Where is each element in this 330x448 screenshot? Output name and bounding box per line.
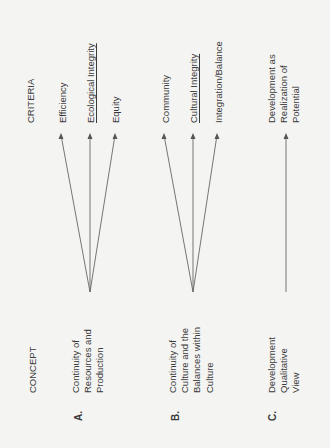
arrow-a-equity	[90, 135, 115, 292]
criterion-ecological-integrity: Ecological Integrity	[85, 43, 97, 123]
concept-letter-c: C.	[267, 411, 279, 421]
arrow-group-a	[61, 135, 115, 292]
criterion-cultural-integrity: Cultural Integrity	[188, 54, 200, 123]
arrowhead-icon	[59, 133, 64, 139]
arrow-group-b	[164, 135, 217, 292]
criterion-equity: Equity	[110, 97, 122, 123]
criterion-community: Community	[160, 75, 172, 123]
arrowhead-icon	[284, 133, 289, 139]
arrow-b-integration-balance	[193, 135, 217, 292]
arrowhead-icon	[88, 133, 93, 139]
arrowhead-icon	[162, 133, 167, 139]
criterion-development-potential: Development as Realization of Potential	[266, 54, 303, 123]
concept-b: Continuity of Culture and the Balances w…	[167, 327, 216, 393]
concept-letter-a: A.	[73, 411, 85, 421]
criterion-efficiency: Efficiency	[57, 83, 69, 123]
arrowhead-icon	[191, 133, 196, 139]
criterion-integration-balance: Integration/Balance	[213, 41, 225, 123]
concept-letter-b: B.	[170, 411, 182, 421]
arrowhead-icon	[215, 133, 220, 139]
arrowhead-icon	[113, 133, 118, 139]
criteria-header: CRITERIA	[25, 79, 37, 123]
concept-header: CONCEPT	[27, 347, 39, 393]
arrow-a-efficiency	[61, 135, 90, 292]
concept-c: Development Qualitative View	[266, 337, 303, 393]
arrow-b-community	[164, 135, 193, 292]
concept-a: Continuity of Resources and Production	[70, 329, 107, 393]
